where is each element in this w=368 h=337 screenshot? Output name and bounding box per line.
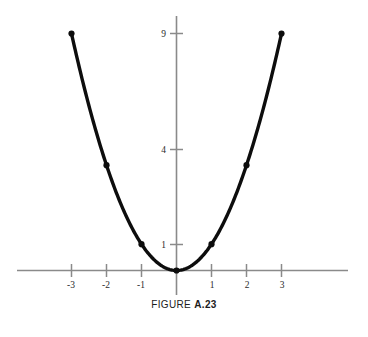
figure-caption: FIGURE A.23	[0, 299, 368, 310]
x-axis-label-neg1: -1	[137, 280, 145, 290]
figure-caption-number: A.23	[194, 299, 217, 310]
x-axis-label-1: 1	[210, 280, 215, 290]
data-point	[138, 241, 144, 247]
data-point	[173, 267, 179, 273]
x-axis-label-neg2: -2	[102, 280, 110, 290]
data-point	[243, 162, 249, 168]
data-point	[208, 241, 214, 247]
data-point	[103, 162, 109, 168]
parabola-plot: -3 -2 -1 1 2 3 1 4 9	[0, 0, 368, 337]
data-point	[68, 30, 74, 36]
data-point	[278, 30, 284, 36]
y-axis-label-1: 1	[161, 240, 166, 250]
x-axis-label-neg3: -3	[67, 280, 75, 290]
x-axis-label-2: 2	[245, 280, 250, 290]
figure-container: -3 -2 -1 1 2 3 1 4 9 FIGURE A.23	[0, 0, 368, 337]
y-axis-label-4: 4	[161, 145, 166, 155]
x-axis-label-3: 3	[280, 280, 285, 290]
figure-caption-prefix: FIGURE	[151, 299, 194, 310]
y-axis-label-9: 9	[161, 29, 166, 39]
